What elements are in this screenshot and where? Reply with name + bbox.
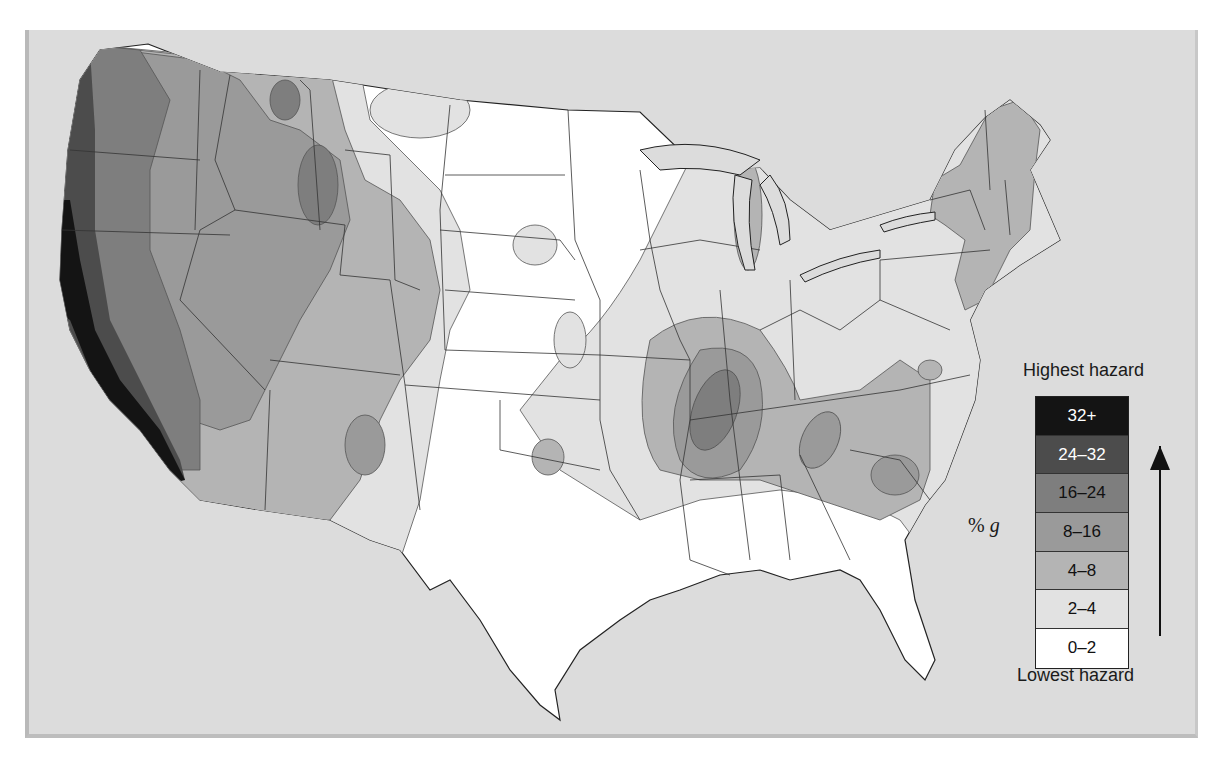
legend-bottom-label: Lowest hazard: [1017, 665, 1134, 686]
legend-class-0-2: 0–2: [1036, 629, 1128, 668]
legend-class-32plus: 32+: [1036, 397, 1128, 436]
legend-class-24-32: 24–32: [1036, 436, 1128, 475]
units-label: % g: [968, 514, 1000, 537]
zone-2-4-dakota: [370, 82, 470, 138]
increasing-hazard-arrow-shaft: [1159, 446, 1161, 636]
legend-class-16-24: 16–24: [1036, 474, 1128, 513]
zone-2-4-nebraska: [513, 225, 557, 265]
legend-class-2-4: 2–4: [1036, 590, 1128, 629]
zone-4-8-virginia: [918, 360, 942, 380]
units-g: g: [990, 514, 1000, 536]
arrow-up-icon: [1150, 446, 1170, 470]
legend-top-label: Highest hazard: [1023, 360, 1144, 381]
zone-16-24-wyoming: [298, 145, 338, 225]
legend-class-4-8: 4–8: [1036, 552, 1128, 591]
zone-8-16-new-mexico: [345, 415, 385, 475]
legend-class-8-16: 8–16: [1036, 513, 1128, 552]
legend-scale: 32+ 24–32 16–24 8–16 4–8 2–4 0–2: [1035, 396, 1129, 669]
units-percent: %: [968, 514, 985, 536]
zone-8-16-charleston: [871, 455, 919, 495]
zone-16-24-montana: [270, 80, 300, 120]
zone-2-4-kansas: [554, 312, 586, 368]
